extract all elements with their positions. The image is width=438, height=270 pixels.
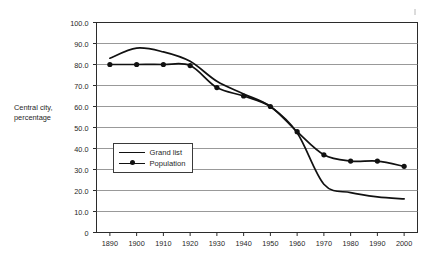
- data-point: [107, 62, 112, 67]
- data-point: [295, 129, 300, 134]
- data-point: [268, 104, 273, 109]
- y-tick-label: 0: [55, 228, 89, 237]
- y-tick-label: 70.0: [55, 81, 89, 90]
- x-tick-marks: [110, 233, 404, 237]
- data-point: [214, 85, 219, 90]
- x-tick-label: 1950: [255, 239, 285, 248]
- x-tick-label: 1940: [229, 239, 259, 248]
- y-tick-label: 10.0: [55, 207, 89, 216]
- x-tick-label: 1970: [309, 239, 339, 248]
- legend-line-icon: [119, 147, 145, 158]
- y-tick-label: 40.0: [55, 144, 89, 153]
- x-tick-label: 1990: [362, 239, 392, 248]
- chart-legend: Grand list Population: [113, 143, 194, 173]
- y-tick-label: 60.0: [55, 102, 89, 111]
- data-point: [188, 63, 193, 68]
- legend-item-grand-list: Grand list: [119, 147, 186, 158]
- x-tick-label: 1920: [175, 239, 205, 248]
- data-point: [402, 164, 407, 169]
- legend-label-grand-list: Grand list: [150, 148, 183, 157]
- data-point: [348, 159, 353, 164]
- legend-line-marker-icon: [119, 158, 145, 169]
- data-point: [321, 152, 326, 157]
- x-tick-label: 1980: [336, 239, 366, 248]
- data-point: [241, 93, 246, 98]
- series-layer: [107, 48, 406, 199]
- series-grand-list: [110, 48, 404, 199]
- x-tick-label: 2000: [389, 239, 419, 248]
- legend-label-population: Population: [150, 159, 186, 168]
- gridlines: [93, 23, 418, 233]
- y-tick-label: 100.0: [55, 18, 89, 27]
- x-tick-label: 1910: [148, 239, 178, 248]
- y-tick-label: 20.0: [55, 186, 89, 195]
- data-point: [134, 62, 139, 67]
- y-tick-label: 90.0: [55, 39, 89, 48]
- x-tick-label: 1960: [282, 239, 312, 248]
- y-tick-label: 50.0: [55, 123, 89, 132]
- data-point: [375, 159, 380, 164]
- legend-item-population: Population: [119, 158, 186, 169]
- y-tick-label: 80.0: [55, 60, 89, 69]
- x-tick-label: 1900: [122, 239, 152, 248]
- x-tick-label: 1890: [95, 239, 125, 248]
- y-tick-label: 30.0: [55, 165, 89, 174]
- data-point: [161, 62, 166, 67]
- x-tick-label: 1930: [202, 239, 232, 248]
- chart-container: Central city,percentage 010.020.030.040.…: [0, 0, 438, 270]
